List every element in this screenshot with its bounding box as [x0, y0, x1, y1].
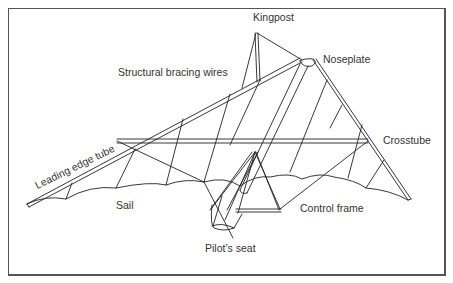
- label-noseplate: Noseplate: [323, 54, 370, 65]
- label-pilots-seat: Pilot’s seat: [205, 243, 256, 254]
- keel: [240, 64, 308, 194]
- crosstube: [117, 139, 368, 143]
- label-crosstube: Crosstube: [383, 135, 431, 146]
- label-kingpost: Kingpost: [253, 12, 294, 23]
- kingpost: [242, 33, 302, 88]
- label-control-frame: Control frame: [300, 203, 364, 214]
- label-sail: Sail: [116, 200, 134, 211]
- structural-bracing-wires: [117, 141, 368, 238]
- label-structural-bracing-wires: Structural bracing wires: [118, 67, 228, 78]
- leading-edge-tube-right: [313, 59, 411, 200]
